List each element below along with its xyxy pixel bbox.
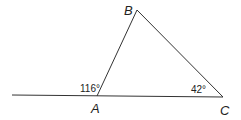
angle-label-exterior-a: 116° <box>80 83 100 94</box>
vertex-label-a: A <box>90 101 100 116</box>
side-ab <box>97 10 137 96</box>
triangle-diagram: B A C 116° 42° <box>0 0 241 120</box>
vertex-label-b: B <box>124 3 133 18</box>
vertex-label-c: C <box>220 103 230 118</box>
extended-baseline <box>12 95 223 97</box>
side-bc <box>137 10 223 97</box>
angle-label-c: 42° <box>191 84 206 95</box>
